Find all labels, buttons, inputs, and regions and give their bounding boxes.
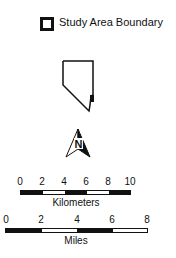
mi-tick-0: 0 (3, 215, 9, 225)
km-tick-2: 2 (39, 177, 45, 187)
miles-bar (5, 228, 148, 233)
km-bar (20, 190, 131, 195)
km-tick-10: 10 (124, 177, 135, 187)
study-area-outline (55, 55, 105, 115)
mi-tick-4: 4 (74, 215, 80, 225)
miles-unit-label: Miles (64, 235, 87, 246)
mi-tick-2: 2 (38, 215, 44, 225)
km-tick-8: 8 (105, 177, 111, 187)
svg-text:N: N (75, 138, 83, 150)
km-tick-6: 6 (83, 177, 89, 187)
study-area-boundary-swatch (40, 17, 54, 31)
mi-tick-6: 6 (109, 215, 115, 225)
km-unit-label: Kilometers (52, 197, 99, 208)
north-arrow-icon: N (64, 127, 94, 161)
mi-tick-8: 8 (144, 215, 150, 225)
legend-label: Study Area Boundary (59, 15, 163, 29)
km-tick-4: 4 (61, 177, 67, 187)
km-tick-0: 0 (17, 177, 23, 187)
